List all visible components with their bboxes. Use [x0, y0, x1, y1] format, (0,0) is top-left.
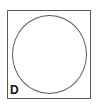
panel-label: D	[10, 84, 19, 96]
circle-shape	[12, 15, 87, 94]
